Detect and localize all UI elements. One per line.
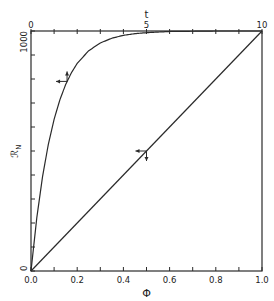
- top-tick-label: 10: [257, 20, 268, 30]
- x-axis-title-phi: Φ: [142, 287, 151, 300]
- series-group: [31, 31, 262, 271]
- bottom-tick-label: 1.0: [255, 275, 269, 285]
- axis-labels: 0.00.20.40.60.81.0051001000ΦtℛN: [9, 9, 269, 300]
- bottom-tick-label: 0.8: [209, 275, 223, 285]
- top-tick-label: 5: [144, 20, 149, 30]
- bottom-tick-label: 0.6: [163, 275, 177, 285]
- left-tick-label: 1000: [19, 31, 29, 53]
- arrow-head-down-icon: [145, 157, 149, 161]
- bottom-tick-label: 0.2: [70, 275, 84, 285]
- bottom-tick-label: 0.4: [117, 275, 131, 285]
- arrow-head-left-icon: [56, 79, 60, 83]
- x-axis-title-t: t: [145, 9, 149, 20]
- y-axis-title: ℛN: [9, 144, 23, 157]
- top-tick-label: 0: [28, 20, 33, 30]
- left-tick-label: 0: [19, 266, 29, 271]
- arrow-head-left-icon: [136, 149, 140, 153]
- chart: 0.00.20.40.60.81.0051001000ΦtℛN: [0, 0, 274, 301]
- arrow-head-up-icon: [65, 71, 69, 75]
- bottom-tick-label: 0.0: [24, 275, 38, 285]
